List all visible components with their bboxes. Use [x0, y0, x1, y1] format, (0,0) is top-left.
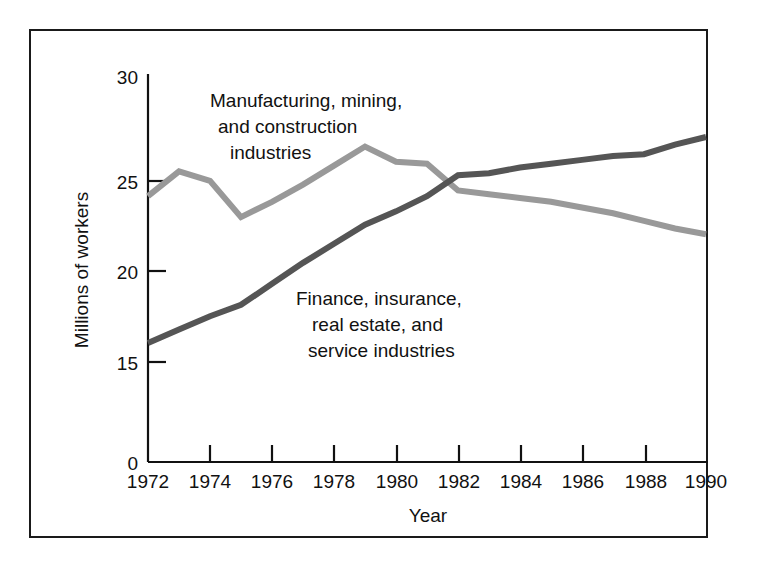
- y-axis-title: Millions of workers: [71, 192, 92, 348]
- x-tick-label-1984: 1984: [500, 471, 543, 492]
- manufacturing-annotation-line3: industries: [230, 142, 311, 163]
- y-tick-label-30: 30: [117, 67, 138, 88]
- x-tick-label-1978: 1978: [313, 471, 355, 492]
- x-axis-title: Year: [409, 505, 448, 526]
- x-tick-label-1990: 1990: [685, 471, 727, 492]
- y-tick-label-20: 20: [117, 262, 138, 283]
- x-tick-label-1972: 1972: [127, 471, 169, 492]
- finance-annotation-line2: real estate, and: [312, 314, 443, 335]
- x-tick-label-1980: 1980: [376, 471, 418, 492]
- y-tick-label-25: 25: [117, 172, 138, 193]
- figure-container: 30 25 20 15 0 Millions of workers 1972 1…: [0, 0, 763, 586]
- x-tick-label-1974: 1974: [189, 471, 232, 492]
- finance-annotation: Finance, insurance, real estate, and ser…: [296, 288, 462, 361]
- y-ticks: [148, 76, 166, 362]
- series-line-finance: [148, 137, 706, 343]
- finance-annotation-line1: Finance, insurance,: [296, 288, 462, 309]
- manufacturing-annotation-line1: Manufacturing, mining,: [210, 90, 402, 111]
- x-ticks: [210, 445, 646, 462]
- manufacturing-annotation-line2: and construction: [218, 116, 357, 137]
- x-tick-label-1988: 1988: [625, 471, 667, 492]
- x-tick-label-1982: 1982: [438, 471, 480, 492]
- finance-annotation-line3: service industries: [308, 340, 455, 361]
- line-chart: 30 25 20 15 0 Millions of workers 1972 1…: [0, 0, 763, 586]
- y-tick-label-15: 15: [117, 353, 138, 374]
- x-tick-label-1976: 1976: [251, 471, 293, 492]
- x-tick-label-1986: 1986: [562, 471, 604, 492]
